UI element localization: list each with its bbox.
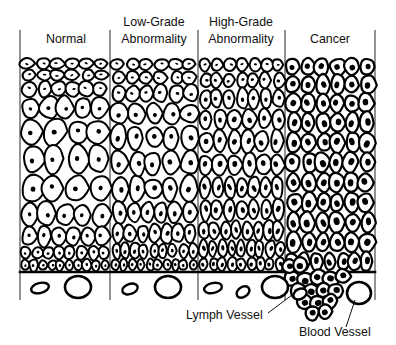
figure-canvas: Normal Low-Grade Abnormality High-Grade … — [0, 0, 396, 345]
stage-label-high-line1: High-Grade — [209, 15, 273, 29]
blood-vessel — [347, 282, 371, 304]
epithelial-cell — [37, 201, 56, 225]
progression-diagram: Normal Low-Grade Abnormality High-Grade … — [0, 0, 396, 345]
cell-nucleus — [240, 246, 243, 251]
stage-label-low-line2: Abnormality — [121, 32, 187, 46]
cell-nucleus — [202, 229, 205, 235]
lymph-vessel-label: Lymph Vessel — [186, 308, 263, 322]
stage-label-low-line1: Low-Grade — [123, 15, 184, 29]
cell-nucleus — [268, 228, 272, 234]
epithelial-cell — [183, 84, 198, 101]
cell-nucleus — [214, 97, 218, 101]
cell-nucleus — [119, 187, 123, 193]
stage-label-high-line2: Abnormality — [208, 32, 274, 46]
blood-vessel — [155, 276, 181, 298]
epithelial-cell — [110, 103, 129, 124]
cell-nucleus — [64, 107, 68, 111]
cell-nucleus — [204, 139, 209, 144]
cell-nucleus — [278, 96, 282, 100]
epithelial-cell — [93, 82, 107, 95]
epithelial-cell — [22, 82, 37, 97]
blood-vessel — [262, 276, 288, 298]
blood-vessel — [65, 276, 91, 298]
stage-label-normal: Normal — [46, 32, 86, 46]
stage-label-cancer: Cancer — [310, 32, 350, 46]
blood-vessel-label: Blood Vessel — [299, 325, 371, 339]
epithelial-cell — [128, 127, 143, 150]
